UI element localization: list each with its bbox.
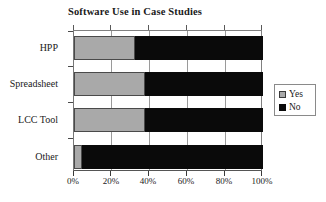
legend-label-yes: Yes (289, 89, 303, 99)
bar-segment-yes[interactable] (74, 145, 82, 169)
x-tick-top-0 (73, 25, 74, 30)
x-tick-label-20: 20% (91, 176, 131, 186)
bar-segment-yes[interactable] (74, 72, 145, 96)
x-tick-top-80 (224, 25, 225, 30)
y-tick-3 (68, 138, 73, 139)
legend: Yes No (274, 84, 316, 116)
bar-row[interactable] (74, 72, 263, 96)
bar-row[interactable] (74, 108, 263, 132)
y-tick-1 (68, 66, 73, 67)
bar-segment-no[interactable] (135, 36, 264, 60)
bar-segment-yes[interactable] (74, 36, 135, 60)
x-tick-top-100 (261, 25, 262, 30)
bar-segment-no[interactable] (145, 108, 263, 132)
category-label-spreadsheet: Spreadsheet (0, 78, 58, 89)
bar-segment-no[interactable] (82, 145, 264, 169)
x-tick-top-40 (148, 25, 149, 30)
legend-item-yes[interactable]: Yes (279, 88, 315, 100)
x-tick-label-100: 100% (242, 176, 282, 186)
chart-title: Software Use in Case Studies (0, 6, 270, 17)
legend-label-no: No (289, 102, 301, 112)
category-label-other: Other (0, 151, 58, 162)
bar-row[interactable] (74, 36, 263, 60)
legend-swatch-yes-icon (279, 91, 286, 98)
bar-segment-no[interactable] (145, 72, 263, 96)
category-label-hpp: HPP (0, 42, 58, 53)
bar-segment-yes[interactable] (74, 108, 145, 132)
plot-area (73, 30, 262, 171)
x-tick-label-0: 0% (53, 176, 93, 186)
category-label-lcc-tool: LCC Tool (0, 114, 58, 125)
legend-item-no[interactable]: No (279, 101, 315, 113)
y-tick-2 (68, 102, 73, 103)
y-tick-0 (68, 31, 73, 32)
legend-swatch-no-icon (279, 104, 286, 111)
x-tick-top-60 (186, 25, 187, 30)
x-tick-label-40: 40% (128, 176, 168, 186)
x-tick-top-20 (110, 25, 111, 30)
x-tick-label-60: 60% (166, 176, 206, 186)
bar-row[interactable] (74, 145, 263, 169)
x-tick-label-80: 80% (204, 176, 244, 186)
chart-container: Software Use in Case Studies (0, 0, 326, 202)
